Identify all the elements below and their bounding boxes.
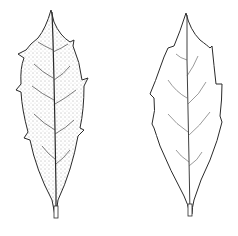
illustration-canvas — [0, 0, 238, 236]
outline-holly-leaf — [150, 13, 222, 216]
holly-leaves-illustration — [0, 0, 238, 236]
stippled-holly-leaf — [16, 10, 88, 218]
